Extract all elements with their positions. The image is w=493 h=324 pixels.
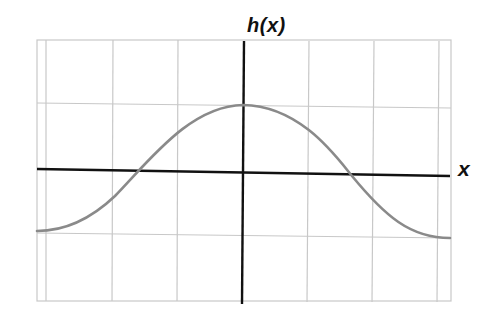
y-axis-label: h(x) [247,14,286,37]
x-axis-label: x [458,157,470,181]
grid-hline [37,233,451,238]
grid-vline [372,41,374,302]
y-axis [242,41,244,304]
grid-vline [437,41,439,302]
grid-vline [307,41,309,302]
chart-plot [0,0,493,324]
